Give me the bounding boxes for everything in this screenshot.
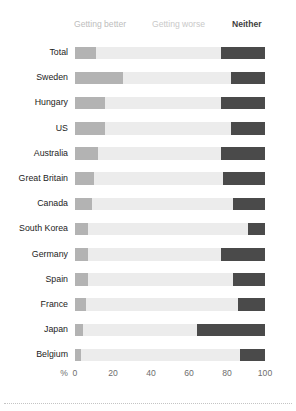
bar-row: France — [0, 292, 296, 317]
legend-item-getting-better: Getting better — [74, 18, 126, 30]
bar-segment-neither — [221, 97, 265, 110]
bar-segment-neither — [233, 273, 265, 286]
bar-segment-getting-better — [75, 72, 123, 85]
bar-row-label: South Korea — [0, 216, 68, 241]
bar-segment-getting-worse — [81, 349, 241, 362]
bar-row-label: Hungary — [0, 90, 68, 115]
x-axis-tick-label: 0 — [73, 368, 78, 378]
bar-track — [75, 324, 265, 337]
bar-segment-neither — [221, 147, 265, 160]
bar-track — [75, 349, 265, 362]
bar-row: Australia — [0, 141, 296, 166]
legend-item-getting-worse: Getting worse — [152, 18, 205, 30]
stacked-bar-chart: Getting better Getting worse Neither Tot… — [0, 0, 296, 411]
bar-track — [75, 223, 265, 236]
bar-track — [75, 147, 265, 160]
bar-track — [75, 298, 265, 311]
bar-segment-neither — [223, 172, 265, 185]
bar-row: Total — [0, 40, 296, 65]
bar-segment-getting-better — [75, 298, 86, 311]
bar-row: Japan — [0, 317, 296, 342]
bar-track — [75, 97, 265, 110]
bar-segment-getting-better — [75, 273, 88, 286]
bar-segment-getting-better — [75, 223, 88, 236]
bar-segment-getting-worse — [88, 248, 221, 261]
bar-segment-getting-better — [75, 147, 98, 160]
bar-segment-getting-better — [75, 172, 94, 185]
bar-row-label: Japan — [0, 317, 68, 342]
axis-unit-label: % — [48, 368, 68, 378]
bar-segment-getting-worse — [105, 122, 230, 135]
bar-row-label: Australia — [0, 141, 68, 166]
bar-row-label: Spain — [0, 267, 68, 292]
bar-row-label: Sweden — [0, 65, 68, 90]
bar-segment-getting-worse — [86, 298, 238, 311]
bar-segment-getting-worse — [105, 97, 221, 110]
bar-row: US — [0, 116, 296, 141]
bar-track — [75, 198, 265, 211]
bar-segment-getting-worse — [92, 198, 233, 211]
bar-segment-getting-better — [75, 47, 96, 60]
bar-row-label: Belgium — [0, 342, 68, 367]
bar-row: Spain — [0, 267, 296, 292]
bar-segment-getting-worse — [88, 223, 248, 236]
bar-segment-getting-better — [75, 248, 88, 261]
bar-track — [75, 122, 265, 135]
bar-segment-neither — [238, 298, 265, 311]
bar-row: Hungary — [0, 90, 296, 115]
chart-legend: Getting better Getting worse Neither — [0, 18, 296, 34]
bar-segment-neither — [197, 324, 265, 337]
bottom-divider — [4, 403, 292, 404]
legend-item-neither: Neither — [232, 18, 262, 30]
x-axis-tick-label: 40 — [146, 368, 156, 378]
bar-row: Sweden — [0, 65, 296, 90]
bar-row-label: Great Britain — [0, 166, 68, 191]
bar-track — [75, 47, 265, 60]
bar-segment-getting-worse — [96, 47, 221, 60]
bar-row-label: Germany — [0, 242, 68, 267]
bar-row: South Korea — [0, 216, 296, 241]
x-axis-tick-label: 100 — [258, 368, 272, 378]
bar-segment-getting-better — [75, 324, 83, 337]
bar-segment-neither — [248, 223, 265, 236]
x-axis-tick-label: 80 — [222, 368, 232, 378]
bar-segment-getting-worse — [94, 172, 223, 185]
x-axis-tick-label: 20 — [108, 368, 118, 378]
bar-row: Belgium — [0, 342, 296, 367]
bar-segment-getting-worse — [88, 273, 232, 286]
x-axis: % 020406080100 — [0, 368, 296, 388]
bar-segment-getting-better — [75, 198, 92, 211]
bar-segment-getting-better — [75, 97, 105, 110]
bar-segment-getting-worse — [123, 72, 231, 85]
bar-row-label: US — [0, 116, 68, 141]
bar-row: Canada — [0, 191, 296, 216]
bar-track — [75, 248, 265, 261]
bar-row-label: Canada — [0, 191, 68, 216]
bar-track — [75, 72, 265, 85]
bar-segment-neither — [233, 198, 265, 211]
bar-track — [75, 172, 265, 185]
bar-track — [75, 273, 265, 286]
bar-segment-neither — [231, 72, 265, 85]
bar-segment-neither — [240, 349, 265, 362]
bar-segment-neither — [231, 122, 265, 135]
bar-row-label: Total — [0, 40, 68, 65]
bar-row-label: France — [0, 292, 68, 317]
bar-segment-neither — [221, 47, 265, 60]
bar-segment-getting-worse — [83, 324, 197, 337]
bar-segment-neither — [221, 248, 265, 261]
chart-plot-area: TotalSwedenHungaryUSAustraliaGreat Brita… — [0, 40, 296, 365]
bar-row: Great Britain — [0, 166, 296, 191]
bar-row: Germany — [0, 242, 296, 267]
bar-segment-getting-better — [75, 122, 105, 135]
x-axis-tick-label: 60 — [184, 368, 194, 378]
bar-segment-getting-worse — [98, 147, 222, 160]
